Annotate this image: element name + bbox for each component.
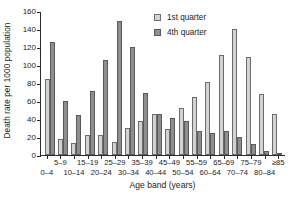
y-axis-tick-mark bbox=[37, 66, 41, 67]
y-axis-tick-label: 40 bbox=[27, 116, 36, 124]
bar bbox=[259, 94, 264, 155]
y-axis-tick-label: 0 bbox=[32, 152, 36, 160]
light-gray-swatch-icon bbox=[154, 14, 161, 21]
x-axis-tick-label: 50–54 bbox=[172, 168, 193, 177]
bar bbox=[76, 115, 81, 156]
y-axis-tick-label: 140 bbox=[23, 26, 36, 34]
legend-label-1st-quarter: 1st quarter bbox=[167, 13, 206, 22]
bar-group bbox=[217, 12, 230, 155]
bar-group bbox=[70, 12, 83, 155]
y-axis-tick-mark bbox=[37, 120, 41, 121]
x-axis-tick-label: 20–24 bbox=[91, 168, 112, 177]
bar bbox=[184, 121, 189, 155]
x-axis-tick-label: 45–49 bbox=[159, 158, 180, 167]
chart-legend: 1st quarter 4th quarter bbox=[154, 13, 207, 43]
bar-group bbox=[244, 12, 257, 155]
x-axis-tick-label: 5–9 bbox=[54, 158, 67, 167]
x-axis-title: Age band (years) bbox=[40, 180, 285, 190]
x-axis-tick-label: 75–79 bbox=[240, 158, 261, 167]
bar bbox=[264, 151, 269, 156]
x-axis-tick-label: 30–34 bbox=[118, 168, 139, 177]
bar-group bbox=[271, 12, 284, 155]
y-axis-tick-mark bbox=[37, 84, 41, 85]
y-axis-tick-mark bbox=[37, 12, 41, 13]
bar bbox=[50, 42, 55, 155]
bar-group bbox=[123, 12, 136, 155]
x-axis-tick-label: 60–64 bbox=[200, 168, 221, 177]
bar bbox=[272, 114, 277, 155]
bar-group bbox=[257, 12, 270, 155]
bar bbox=[63, 101, 68, 155]
x-axis-tick-label: 15–19 bbox=[77, 158, 98, 167]
bar-group bbox=[83, 12, 96, 155]
x-axis-tick-label: 80–84 bbox=[254, 168, 275, 177]
y-axis-tick-label: 100 bbox=[23, 62, 36, 70]
y-axis-tick-mark bbox=[37, 102, 41, 103]
y-axis-title-text: Death rate per 1000 population bbox=[4, 22, 13, 138]
bar bbox=[251, 144, 256, 155]
y-axis-tick-label: 20 bbox=[27, 134, 36, 142]
bar-group bbox=[97, 12, 110, 155]
bar bbox=[130, 47, 135, 155]
bar bbox=[157, 114, 162, 155]
x-axis-tick-label: 65–69 bbox=[213, 158, 234, 167]
x-axis-tick-label: 55–59 bbox=[186, 158, 207, 167]
x-axis-tick-label: 10–14 bbox=[63, 168, 84, 177]
dark-gray-swatch-icon bbox=[154, 29, 161, 36]
bar bbox=[117, 21, 122, 155]
x-axis-tick-labels-lower-row: 0–410–1420–2430–3440–4450–5460–6470–7480… bbox=[40, 168, 285, 179]
bar bbox=[170, 118, 175, 155]
y-axis-tick-label: 80 bbox=[27, 80, 36, 88]
legend-item-4th-quarter: 4th quarter bbox=[154, 28, 207, 37]
x-axis-tick-label: 70–74 bbox=[227, 168, 248, 177]
legend-label-4th-quarter: 4th quarter bbox=[167, 28, 207, 37]
x-axis-tick-label: 25–29 bbox=[104, 158, 125, 167]
y-axis-tick-label: 160 bbox=[23, 8, 36, 16]
bar-group bbox=[56, 12, 69, 155]
bar bbox=[277, 153, 282, 155]
x-axis-tick-label: 40–44 bbox=[145, 168, 166, 177]
bar bbox=[224, 131, 229, 155]
y-axis-tick-labels: 020406080100120140160 bbox=[14, 12, 38, 156]
x-axis-tick-label: ≥85 bbox=[272, 158, 285, 167]
x-axis-tick-label: 0–4 bbox=[40, 168, 53, 177]
bar bbox=[197, 131, 202, 155]
bar-group bbox=[43, 12, 56, 155]
bar bbox=[90, 91, 95, 155]
y-axis-tick-label: 120 bbox=[23, 44, 36, 52]
y-axis-tick-mark bbox=[37, 30, 41, 31]
y-axis-tick-label: 60 bbox=[27, 98, 36, 106]
bar-group bbox=[137, 12, 150, 155]
bar bbox=[237, 137, 242, 155]
bar-group bbox=[230, 12, 243, 155]
bar-chart-figure: Death rate per 1000 population 020406080… bbox=[0, 0, 293, 199]
bar bbox=[143, 93, 148, 155]
y-axis-tick-mark bbox=[37, 138, 41, 139]
bar-group bbox=[110, 12, 123, 155]
legend-item-1st-quarter: 1st quarter bbox=[154, 13, 207, 22]
bar bbox=[103, 60, 108, 155]
x-axis-tick-label: 35–39 bbox=[132, 158, 153, 167]
y-axis-tick-mark bbox=[37, 48, 41, 49]
bar bbox=[246, 57, 251, 155]
bar bbox=[210, 133, 215, 155]
